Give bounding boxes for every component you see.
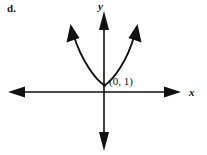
y-axis-top-arrow-icon	[99, 11, 109, 30]
x-axis-left-arrow-icon	[8, 87, 25, 98]
y-axis-label: y	[98, 1, 103, 12]
y-axis-bottom-arrow-icon	[99, 132, 109, 151]
parabola-right-arrow-icon	[129, 24, 142, 43]
x-axis-label: x	[189, 87, 195, 98]
vertex-marker	[103, 84, 106, 87]
parabola-left-branch	[74, 35, 105, 86]
parabola-left-arrow-icon	[67, 24, 80, 43]
vertex-point-label: (0, 1)	[109, 76, 133, 87]
figure-container: d. y x (0, 1)	[0, 0, 207, 155]
graph-canvas	[0, 0, 207, 155]
x-axis-right-arrow-icon	[164, 87, 181, 98]
